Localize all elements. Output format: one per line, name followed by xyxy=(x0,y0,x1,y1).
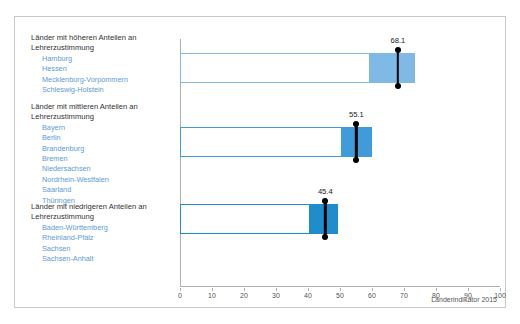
value-label: 45.4 xyxy=(318,187,333,196)
list-item: Hamburg xyxy=(31,54,179,64)
list-item: Berlin xyxy=(31,133,179,143)
x-tick-label: 40 xyxy=(304,292,312,299)
list-item: Bayern xyxy=(31,123,179,133)
x-tick-mark xyxy=(500,288,501,291)
x-tick-mark xyxy=(308,288,309,291)
bar xyxy=(180,204,338,234)
x-tick-label: 30 xyxy=(272,292,280,299)
x-tick-mark xyxy=(244,288,245,291)
value-marker-line xyxy=(355,123,357,161)
bar-outline-segment xyxy=(180,204,310,234)
group-block-middle: Länder mit mittleren Anteilen an Lehrerz… xyxy=(31,102,179,206)
list-item: Bremen xyxy=(31,154,179,164)
value-marker-dot xyxy=(395,47,401,53)
x-tick-mark xyxy=(404,288,405,291)
x-tick-label: 50 xyxy=(336,292,344,299)
list-item: Sachsen-Anhalt xyxy=(31,254,179,264)
bar-outline-segment xyxy=(180,127,342,157)
x-axis-line xyxy=(180,286,500,287)
value-label: 55.1 xyxy=(349,110,364,119)
x-tick-mark xyxy=(468,288,469,291)
x-tick-mark xyxy=(276,288,277,291)
list-item: Nordrhein-Westfalen xyxy=(31,175,179,185)
value-marker-dot xyxy=(395,83,401,89)
value-marker-dot xyxy=(322,234,328,240)
source-note: Länderindikator 2015 xyxy=(431,296,497,303)
x-tick-mark xyxy=(212,288,213,291)
x-tick-label: 70 xyxy=(400,292,408,299)
plot-area: 0102030405060708090100 68.155.145.4 xyxy=(180,39,500,289)
state-list-low: Baden-Württemberg Rheinland-Pfalz Sachse… xyxy=(31,223,179,265)
x-tick-mark xyxy=(372,288,373,291)
list-item: Rheinland-Pfalz xyxy=(31,233,179,243)
value-marker-line xyxy=(397,49,399,87)
value-marker-dot xyxy=(322,198,328,204)
group-block-high: Länder mit höheren Anteilen an Lehrerzus… xyxy=(31,33,179,95)
list-item: Hessen xyxy=(31,64,179,74)
group-title-high: Länder mit höheren Anteilen an Lehrerzus… xyxy=(31,33,179,54)
bar-fill-segment xyxy=(370,53,415,83)
value-label: 68.1 xyxy=(391,36,406,45)
x-tick-label: 20 xyxy=(240,292,248,299)
figure-container: Länder mit höheren Anteilen an Lehrerzus… xyxy=(14,16,506,308)
value-marker-line xyxy=(324,200,326,238)
list-item: Niedersachsen xyxy=(31,164,179,174)
x-tick-mark xyxy=(436,288,437,291)
category-label-column: Länder mit höheren Anteilen an Lehrerzus… xyxy=(31,17,179,307)
value-marker-dot xyxy=(353,157,359,163)
bar xyxy=(180,127,372,157)
x-tick-label: 60 xyxy=(368,292,376,299)
list-item: Schleswig-Holstein xyxy=(31,85,179,95)
list-item: Mecklenburg-Vorpommern xyxy=(31,75,179,85)
bar xyxy=(180,53,415,83)
list-item: Baden-Württemberg xyxy=(31,223,179,233)
x-tick-mark xyxy=(180,288,181,291)
group-title-middle: Länder mit mittleren Anteilen an Lehrerz… xyxy=(31,102,179,123)
x-tick-label: 0 xyxy=(178,292,182,299)
group-block-low: Länder mit niedrigeren Anteilen an Lehre… xyxy=(31,202,179,264)
x-tick-mark xyxy=(340,288,341,291)
state-list-middle: Bayern Berlin Brandenburg Bremen Nieders… xyxy=(31,123,179,206)
list-item: Saarland xyxy=(31,185,179,195)
value-marker-dot xyxy=(353,121,359,127)
bar-outline-segment xyxy=(180,53,370,83)
list-item: Sachsen xyxy=(31,244,179,254)
list-item: Brandenburg xyxy=(31,144,179,154)
x-tick-label: 10 xyxy=(208,292,216,299)
group-title-low: Länder mit niedrigeren Anteilen an Lehre… xyxy=(31,202,179,223)
state-list-high: Hamburg Hessen Mecklenburg-Vorpommern Sc… xyxy=(31,54,179,96)
